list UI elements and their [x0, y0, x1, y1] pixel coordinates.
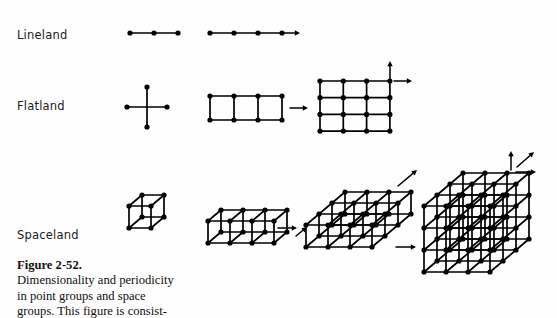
lattice-node — [227, 218, 232, 223]
lattice-node — [341, 78, 346, 83]
lattice-node — [408, 211, 413, 216]
spaceland-two-dim-periodic — [303, 170, 417, 250]
lattice-node — [127, 30, 132, 35]
row-label-lineland: Lineland — [17, 28, 67, 42]
lattice-node — [456, 214, 461, 219]
lattice-node — [338, 233, 343, 238]
lattice-node — [369, 222, 374, 227]
lattice-node — [478, 214, 483, 219]
lattice-node — [231, 30, 236, 35]
lattice-node — [360, 233, 365, 238]
lattice-node — [465, 269, 470, 274]
lattice-node — [218, 207, 223, 212]
lattice-node — [303, 244, 308, 249]
x-translation-arrow-head — [531, 169, 536, 174]
lattice-node — [341, 95, 346, 100]
z-translation-arrow-shaft — [517, 155, 530, 167]
lattice-node — [387, 112, 392, 117]
y-translation-arrow-head — [387, 61, 392, 66]
lattice-node — [487, 203, 492, 208]
lattice-node — [144, 124, 149, 129]
lattice-node — [421, 269, 426, 274]
lattice-node — [456, 258, 461, 263]
lattice-node — [482, 170, 487, 175]
lattice-node — [443, 247, 448, 252]
row-label-flatland: Flatland — [17, 99, 65, 113]
caption-line-1: Dimensionality and periodicity — [17, 273, 267, 288]
lattice-node — [513, 203, 518, 208]
lattice-node — [205, 218, 210, 223]
lattice-node — [387, 95, 392, 100]
lattice-node — [151, 30, 156, 35]
lattice-node — [255, 117, 260, 122]
lattice-node — [207, 117, 212, 122]
figure-caption: Figure 2-52. Dimensionality and periodic… — [17, 258, 267, 318]
lattice-node — [364, 112, 369, 117]
lattice-node — [347, 244, 352, 249]
lattice-node — [255, 93, 260, 98]
lattice-node — [491, 181, 496, 186]
lattice-node — [478, 258, 483, 263]
x-translation-arrow-head — [411, 244, 416, 249]
lattice-node — [386, 189, 391, 194]
lattice-node — [347, 222, 352, 227]
lattice-node — [487, 225, 492, 230]
lattice-node — [271, 240, 276, 245]
lattice-node — [341, 112, 346, 117]
lattice-node — [279, 93, 284, 98]
lattice-node — [487, 247, 492, 252]
lattice-node — [227, 240, 232, 245]
lattice-node — [161, 192, 166, 197]
lattice-node — [303, 222, 308, 227]
z-translation-arrow-shaft — [296, 230, 303, 236]
lattice-node — [284, 207, 289, 212]
lattice-node — [500, 192, 505, 197]
lattice-node — [316, 233, 321, 238]
lattice-node — [148, 225, 153, 230]
lattice-node — [240, 229, 245, 234]
lattice-node — [369, 244, 374, 249]
lattice-node — [205, 240, 210, 245]
lattice-node — [434, 214, 439, 219]
lineland-point-group — [127, 30, 180, 35]
lattice-node — [279, 117, 284, 122]
lattice-node — [126, 225, 131, 230]
lattice-node — [373, 200, 378, 205]
lattice-node — [317, 95, 322, 100]
lattice-node — [434, 236, 439, 241]
lattice-node — [139, 192, 144, 197]
lattice-node — [338, 211, 343, 216]
lattice-node — [175, 30, 180, 35]
lattice-node — [124, 104, 129, 109]
lattice-node — [317, 112, 322, 117]
x-translation-arrow-head — [295, 30, 300, 35]
lattice-node — [218, 229, 223, 234]
lattice-node — [262, 207, 267, 212]
lattice-node — [526, 214, 531, 219]
lattice-node — [460, 170, 465, 175]
lattice-node — [255, 30, 260, 35]
spaceland-three-dim-periodic — [421, 151, 536, 275]
lattice-node — [443, 269, 448, 274]
lattice-node — [443, 203, 448, 208]
lattice-node — [465, 225, 470, 230]
lattice-node — [271, 218, 276, 223]
lattice-node — [325, 222, 330, 227]
lattice-node — [144, 84, 149, 89]
x-translation-arrow-head — [407, 78, 412, 83]
lattice-node — [443, 225, 448, 230]
lattice-node — [434, 258, 439, 263]
lattice-node — [513, 181, 518, 186]
lattice-node — [387, 129, 392, 134]
lattice-node — [421, 247, 426, 252]
lattice-node — [421, 225, 426, 230]
lattice-node — [500, 258, 505, 263]
lattice-node — [478, 236, 483, 241]
lattice-node — [342, 189, 347, 194]
lattice-node — [487, 269, 492, 274]
lattice-node — [478, 192, 483, 197]
flatland-two-dim-periodic — [317, 61, 412, 134]
row-label-spaceland: Spaceland — [17, 228, 79, 242]
x-translation-arrow-head — [303, 105, 308, 110]
lattice-node — [341, 129, 346, 134]
